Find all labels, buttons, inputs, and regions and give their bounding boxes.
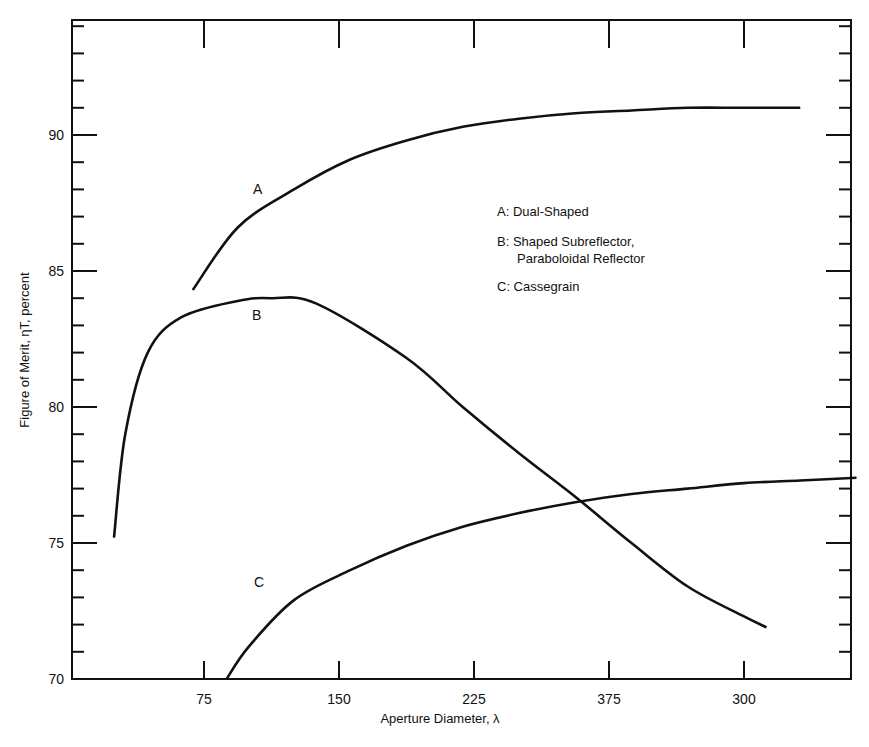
x-tick-label: 150: [327, 691, 351, 707]
legend: A: Dual-Shaped B: Shaped Subreflector, P…: [497, 204, 646, 294]
curve-label-a: A: [253, 181, 263, 197]
curve-b: [114, 297, 767, 627]
curves: [114, 108, 857, 679]
x-tick-label: 300: [732, 691, 756, 707]
y-tick-label: 75: [48, 535, 64, 551]
x-tick-label: 375: [597, 691, 621, 707]
y-ticks-right: [826, 26, 851, 679]
y-tick-label: 70: [48, 671, 64, 687]
chart: 7075808590 75150225375300 A B C A: Dual-…: [0, 0, 869, 747]
legend-item-c: C: Cassegrain: [497, 279, 579, 294]
curve-c: [227, 478, 857, 679]
y-tick-label: 85: [48, 263, 64, 279]
x-ticks: 75150225375300: [196, 20, 756, 707]
curve-label-c: C: [254, 574, 264, 590]
curve-a: [193, 108, 801, 290]
x-tick-label: 75: [196, 691, 212, 707]
legend-item-a: A: Dual-Shaped: [497, 204, 589, 219]
x-tick-label: 225: [462, 691, 486, 707]
x-axis-title: Aperture Diameter, λ: [380, 711, 500, 726]
plot-frame: [72, 20, 851, 679]
legend-item-b-line2: Paraboloidal Reflector: [517, 251, 646, 266]
legend-item-b: B: Shaped Subreflector,: [497, 234, 634, 249]
y-tick-label: 80: [48, 399, 64, 415]
curve-label-b: B: [252, 307, 261, 323]
y-tick-label: 90: [48, 127, 64, 143]
y-axis-title: Figure of Merit, ηT, percent: [17, 272, 32, 428]
